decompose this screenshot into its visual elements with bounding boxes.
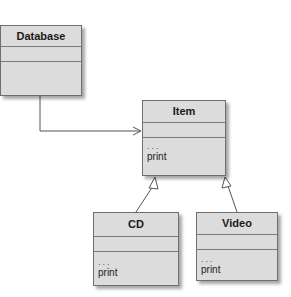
class-database[interactable]: Database: [0, 25, 82, 96]
attributes-compartment: [1, 47, 81, 62]
association-line-database-item: [40, 96, 140, 131]
attributes-compartment: [94, 237, 178, 252]
generalization-line-video-item: [228, 186, 237, 212]
operation-ellipsis: ...: [201, 254, 277, 264]
class-name: Database: [1, 26, 81, 47]
operation-print: print: [147, 151, 225, 163]
generalization-arrowhead-video: [222, 177, 231, 188]
operations-compartment: ... print: [94, 252, 178, 279]
generalization-line-cd-item: [136, 186, 153, 212]
class-video[interactable]: Video ... print: [196, 212, 278, 281]
class-cd[interactable]: CD ... print: [93, 212, 179, 286]
operation-print: print: [201, 264, 277, 276]
operations-compartment: ... print: [143, 138, 225, 163]
attributes-compartment: [197, 235, 277, 250]
operation-ellipsis: ...: [98, 257, 178, 267]
class-name: Item: [143, 101, 225, 123]
operations-compartment: ... print: [197, 250, 277, 276]
class-item[interactable]: Item ... print: [142, 100, 226, 176]
operation-ellipsis: ...: [147, 141, 225, 151]
attributes-compartment: [143, 123, 225, 138]
class-name: Video: [197, 213, 277, 235]
generalization-arrowhead-cd: [149, 177, 158, 189]
class-name: CD: [94, 213, 178, 237]
operation-print: print: [98, 267, 178, 279]
